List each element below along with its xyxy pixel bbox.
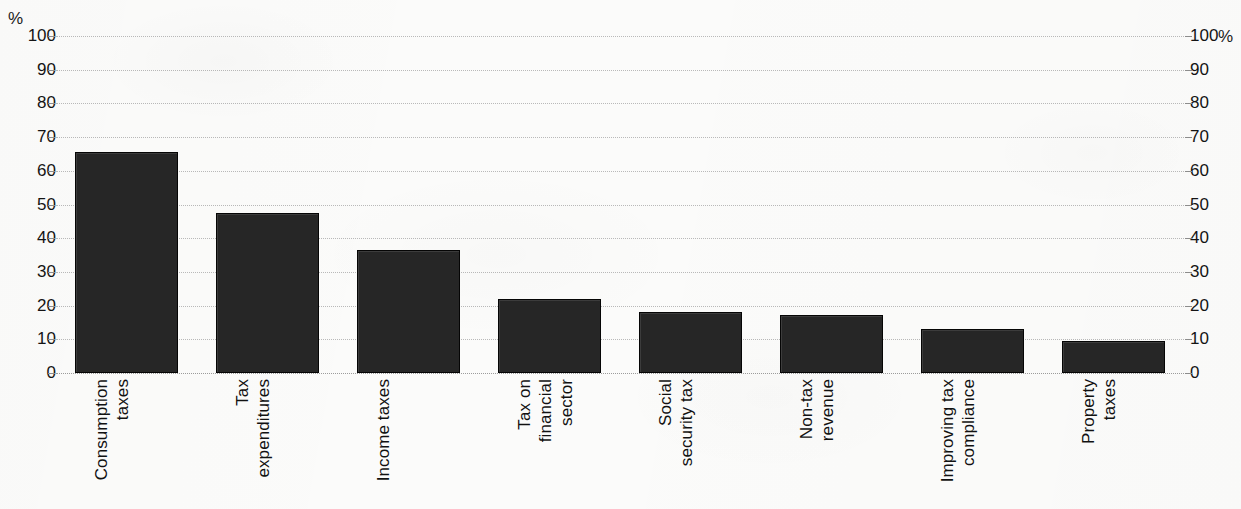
tick-mark-left: [48, 205, 55, 206]
gridline: [56, 36, 1184, 37]
gridline: [56, 137, 1184, 138]
right-axis-tick-50: 50: [1190, 196, 1209, 213]
right-axis-tick-40: 40: [1190, 229, 1209, 246]
category-label-line: taxes: [114, 379, 131, 420]
tick-mark-left: [48, 36, 55, 37]
tick-mark-right: [1185, 103, 1192, 104]
tick-mark-right: [1185, 306, 1192, 307]
bar[interactable]: [357, 250, 460, 373]
tick-mark-right: [1185, 171, 1192, 172]
tick-mark-left: [48, 171, 55, 172]
category-label-line: Improving tax: [939, 379, 956, 482]
gridline: [56, 205, 1184, 206]
right-axis-tick-70: 70: [1190, 128, 1209, 145]
gridline: [56, 373, 1184, 374]
category-label-line: Non-tax: [798, 379, 815, 439]
category-label-line: compliance: [960, 379, 977, 466]
tick-mark-left: [48, 238, 55, 239]
tick-mark-right: [1185, 373, 1192, 374]
tick-mark-left: [48, 137, 55, 138]
category-label-line: Tax: [234, 379, 251, 406]
right-axis-tick-30: 30: [1190, 263, 1209, 280]
right-axis-tick-20: 20: [1190, 297, 1209, 314]
category-label-line: revenue: [819, 379, 836, 441]
right-axis-tick-10: 10: [1190, 330, 1209, 347]
category-label: Consumptiontaxes: [93, 379, 135, 507]
category-label: Tax onfinancialsector: [516, 379, 579, 507]
right-axis-tick-90: 90: [1190, 61, 1209, 78]
tick-mark-left: [48, 339, 55, 340]
tick-mark-right: [1185, 339, 1192, 340]
bar[interactable]: [498, 299, 601, 373]
category-label-line: Income taxes: [375, 379, 392, 481]
category-label-line: security tax: [678, 379, 695, 466]
right-axis-tick-60: 60: [1190, 162, 1209, 179]
bar[interactable]: [921, 329, 1024, 373]
plot-area: [56, 36, 1184, 373]
tick-mark-right: [1185, 137, 1192, 138]
tick-mark-right: [1185, 272, 1192, 273]
right-axis-tick-100: 100: [1190, 27, 1218, 44]
bar[interactable]: [75, 152, 178, 373]
category-axis-labels: ConsumptiontaxesTaxexpendituresIncome ta…: [56, 379, 1184, 509]
category-label-line: sector: [558, 379, 575, 426]
left-axis-unit-label: %: [8, 10, 23, 27]
tick-mark-right: [1185, 205, 1192, 206]
category-label: Taxexpenditures: [234, 379, 276, 507]
bar[interactable]: [1062, 341, 1165, 373]
tick-mark-right: [1185, 36, 1192, 37]
tick-mark-left: [48, 306, 55, 307]
tick-mark-left: [48, 272, 55, 273]
bar-chart: % % 1009080706050403020100 1009080706050…: [0, 0, 1241, 509]
gridline: [56, 171, 1184, 172]
tick-mark-left: [48, 373, 55, 374]
category-label-line: expenditures: [255, 379, 272, 478]
category-label-line: Tax on: [516, 379, 533, 430]
tick-mark-right: [1185, 238, 1192, 239]
tick-mark-right: [1185, 70, 1192, 71]
tick-mark-left: [48, 103, 55, 104]
gridline: [56, 70, 1184, 71]
category-label: Socialsecurity tax: [657, 379, 699, 507]
category-label: Propertytaxes: [1080, 379, 1122, 507]
bar[interactable]: [639, 312, 742, 373]
category-label: Non-taxrevenue: [798, 379, 840, 507]
right-axis-unit-label: %: [1218, 28, 1233, 45]
category-label: Income taxes: [375, 379, 396, 507]
tick-mark-left: [48, 70, 55, 71]
bar[interactable]: [216, 213, 319, 373]
category-label: Improving taxcompliance: [939, 379, 981, 507]
category-label-line: Social: [657, 379, 674, 426]
bar[interactable]: [780, 315, 883, 373]
category-label-line: Consumption: [93, 379, 110, 480]
gridline: [56, 103, 1184, 104]
category-label-line: taxes: [1101, 379, 1118, 420]
category-label-line: Property: [1080, 379, 1097, 444]
right-axis-tick-80: 80: [1190, 94, 1209, 111]
category-label-line: financial: [537, 379, 554, 442]
